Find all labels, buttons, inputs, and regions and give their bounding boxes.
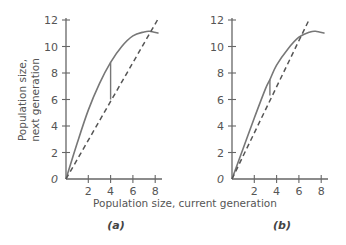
y-tick-label: 2 [217, 147, 224, 160]
y-tick-label: 10 [210, 41, 224, 54]
recruitment-curve [66, 31, 159, 179]
x-axis-title: Population size, current generation [93, 197, 277, 209]
replacement-line [66, 20, 157, 179]
chart-figure: Population size, next generation 0246810… [0, 0, 346, 245]
panel-b: 0246810122468 [210, 14, 328, 198]
y-tick-label: 12 [210, 14, 224, 27]
y-tick-label: 0 [217, 173, 224, 186]
y-tick-label: 6 [217, 94, 224, 107]
y-tick-label: 0 [51, 173, 58, 186]
y-tick-label: 4 [217, 120, 224, 133]
y-axis-title-line1: Population size, [16, 59, 28, 141]
y-axis-title-line2: next generation [29, 58, 41, 142]
y-tick-label: 12 [44, 14, 58, 27]
replacement-line [232, 20, 309, 179]
panel-a: 0246810122468 [44, 14, 162, 198]
panel-a-label: (a) [107, 219, 124, 232]
x-tick-label: 2 [85, 185, 92, 198]
y-tick-label: 8 [217, 67, 224, 80]
y-tick-label: 10 [44, 41, 58, 54]
y-tick-label: 6 [51, 94, 58, 107]
x-tick-label: 6 [295, 185, 302, 198]
y-tick-label: 2 [51, 147, 58, 160]
recruitment-curve [232, 31, 325, 179]
y-tick-label: 8 [51, 67, 58, 80]
x-tick-label: 8 [318, 185, 325, 198]
y-tick-label: 4 [51, 120, 58, 133]
panel-b-label: (b) [273, 219, 291, 232]
